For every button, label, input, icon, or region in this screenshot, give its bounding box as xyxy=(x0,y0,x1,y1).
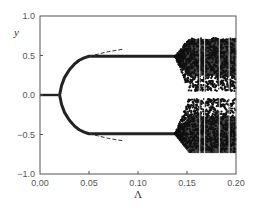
x-tick-label: 0.10 xyxy=(129,178,147,188)
y-tick-label: −0.5 xyxy=(17,130,35,140)
x-tick-label: 0.20 xyxy=(227,178,245,188)
chaotic-band xyxy=(174,37,236,153)
upper-branch xyxy=(60,56,176,95)
x-tick-label: 0.05 xyxy=(80,178,98,188)
y-tick-label: 1.0 xyxy=(22,11,35,21)
bifurcation-chart: 0.000.050.100.150.20 1.00.50.0−0.5−1.0 Λ… xyxy=(0,0,257,214)
y-tick-label: 0.5 xyxy=(22,51,35,61)
y-tick-label: −1.0 xyxy=(17,169,35,179)
x-tick-label: 0.00 xyxy=(31,178,49,188)
y-axis-ticks: 1.00.50.0−0.5−1.0 xyxy=(17,11,43,179)
x-axis-label: Λ xyxy=(134,188,142,200)
x-tick-label: 0.15 xyxy=(178,178,196,188)
y-tick-label: 0.0 xyxy=(22,90,35,100)
plot-content xyxy=(40,36,236,155)
y-axis-label: y xyxy=(13,26,19,38)
lower-branch xyxy=(60,95,176,134)
